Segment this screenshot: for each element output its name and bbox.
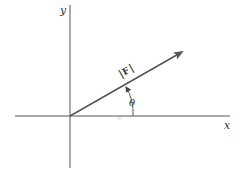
vector-magnitude-label: | F | <box>116 62 136 80</box>
x-axis-label: x <box>224 119 231 132</box>
faint-mark: m <box>117 115 122 121</box>
vector-diagram: y x | F | θ m <box>0 0 241 178</box>
y-axis-label: y <box>59 4 67 17</box>
theta-label: θ <box>129 97 135 108</box>
vector-f <box>70 52 182 116</box>
